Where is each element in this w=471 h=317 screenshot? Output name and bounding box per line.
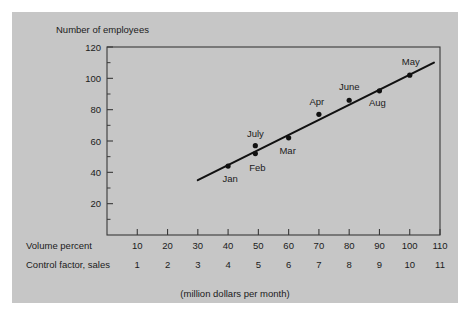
x-tick-label-primary: 60 xyxy=(283,240,294,251)
y-tick-label: 80 xyxy=(90,104,101,115)
x-axis-ticks xyxy=(137,229,440,235)
x-tick-label-primary: 10 xyxy=(132,240,143,251)
y-tick-label: 40 xyxy=(90,167,101,178)
data-point xyxy=(316,112,321,117)
y-axis-title: Number of employees xyxy=(56,24,149,35)
x-tick-label-primary: 80 xyxy=(344,240,355,251)
data-point-label: Apr xyxy=(310,96,325,107)
x-tick-label-primary: 30 xyxy=(193,240,204,251)
x-tick-label-secondary: 10 xyxy=(404,259,415,270)
x-tick-label-secondary: 6 xyxy=(286,259,291,270)
data-point-label: Feb xyxy=(249,162,265,173)
x-tick-label-secondary: 2 xyxy=(165,259,170,270)
x-tick-label-primary: 100 xyxy=(402,240,418,251)
scatter-chart: Number of employees 20406080100120 JanFe… xyxy=(12,12,458,303)
x-tick-label-secondary: 4 xyxy=(225,259,230,270)
x-axis-secondary-label: Control factor, sales xyxy=(26,259,110,270)
chart-caption: (million dollars per month) xyxy=(180,288,289,299)
x-tick-label-primary: 40 xyxy=(223,240,234,251)
data-point xyxy=(347,98,352,103)
x-tick-label-primary: 110 xyxy=(432,240,447,251)
data-point xyxy=(377,88,382,93)
x-tick-label-secondary: 3 xyxy=(195,259,200,270)
data-point-group: JanFebJulyMarAprJuneAugMay xyxy=(222,56,420,184)
x-axis-primary-values: 102030405060708090100110 xyxy=(132,240,448,251)
data-point xyxy=(407,73,412,78)
x-tick-label-primary: 70 xyxy=(314,240,325,251)
data-point xyxy=(225,163,230,168)
plot-frame xyxy=(107,47,440,235)
data-point-label: July xyxy=(247,128,264,139)
y-tick-label: 120 xyxy=(85,42,101,53)
data-point xyxy=(253,143,258,148)
y-tick-label: 20 xyxy=(90,198,101,209)
data-point-label: June xyxy=(339,81,360,92)
x-tick-label-secondary: 7 xyxy=(316,259,321,270)
x-axis-secondary-values: 1234567891011 xyxy=(135,259,445,270)
data-point-label: Mar xyxy=(279,145,295,156)
y-tick-label: 100 xyxy=(85,73,101,84)
data-point-label: Aug xyxy=(369,97,386,108)
data-point xyxy=(253,151,258,156)
x-tick-label-secondary: 5 xyxy=(256,259,261,270)
figure-panel: Number of employees 20406080100120 JanFe… xyxy=(12,12,458,303)
y-axis-ticks: 20406080100120 xyxy=(85,42,113,220)
x-tick-label-secondary: 9 xyxy=(377,259,382,270)
data-point-label: Jan xyxy=(222,173,237,184)
x-tick-label-primary: 50 xyxy=(253,240,264,251)
x-tick-label-primary: 90 xyxy=(374,240,385,251)
data-point-label: May xyxy=(402,56,420,67)
x-tick-label-primary: 20 xyxy=(162,240,173,251)
x-axis-primary-label: Volume percent xyxy=(26,240,92,251)
trend-line xyxy=(198,63,434,181)
screenshot-page: Number of employees 20406080100120 JanFe… xyxy=(0,0,471,317)
data-point xyxy=(286,135,291,140)
x-tick-label-secondary: 8 xyxy=(347,259,352,270)
y-tick-label: 60 xyxy=(90,136,101,147)
x-tick-label-secondary: 1 xyxy=(135,259,140,270)
x-tick-label-secondary: 11 xyxy=(435,259,445,270)
